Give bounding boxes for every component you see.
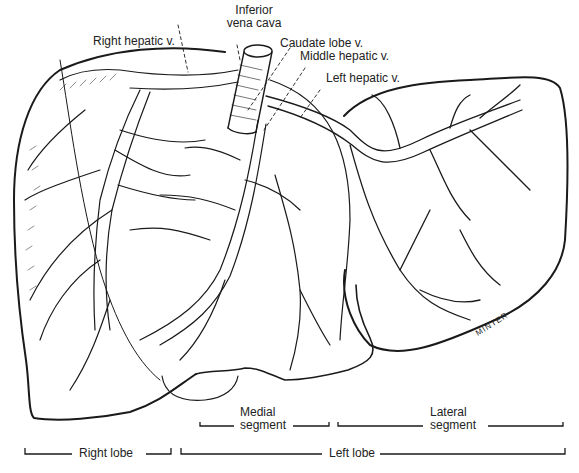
falciform-line [270, 80, 350, 340]
label-right-lobe: Right lobe [76, 447, 136, 460]
right-lobe-outline [14, 48, 225, 419]
lateral-lobe-outline [344, 77, 567, 351]
middle-hepatic-vein [130, 120, 330, 370]
label-left-hepatic-v: Left hepatic v. [326, 72, 400, 85]
label-middle-hepatic-v: Middle hepatic v. [300, 50, 389, 63]
ivc [228, 45, 272, 134]
ivc-line-2: vena cava [224, 17, 284, 30]
label-medial-segment: Medial segment [240, 406, 286, 432]
left-hepatic-vein [266, 85, 530, 320]
liver-illustration [0, 0, 579, 473]
label-left-lobe: Left lobe [326, 447, 378, 460]
right-hepatic-hatching [26, 74, 116, 290]
gallbladder-outline [162, 376, 238, 400]
label-right-hepatic-v: Right hepatic v. [93, 35, 175, 48]
label-lateral-segment: Lateral segment [430, 406, 476, 432]
label-inferior-vena-cava: Inferior vena cava [224, 4, 284, 30]
medial-line-2: segment [240, 419, 286, 432]
lateral-line-2: segment [430, 419, 476, 432]
